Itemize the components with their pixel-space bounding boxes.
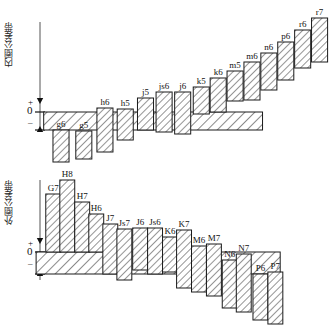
- tolerance-zone-label: P7: [271, 261, 281, 271]
- inner-chart-canvas: g6g5h6h5j5js6j6k5k6m5m6n6p6r6r7: [0, 0, 329, 170]
- tolerance-zone-label: K7: [179, 219, 190, 229]
- tolerance-zone-bar: [53, 130, 69, 162]
- inner-chart-title: 内圈公差带: [3, 22, 13, 67]
- tolerance-zone-label: m6: [246, 51, 258, 61]
- tolerance-zone-bar: [192, 246, 207, 292]
- tolerance-zone-bar: [236, 254, 251, 312]
- tolerance-zone-bar: [103, 224, 118, 274]
- tolerance-zone-bar: [46, 194, 61, 252]
- tolerance-zone-bar: [156, 92, 172, 132]
- tolerance-zone-bar: [206, 244, 221, 296]
- tolerance-zone-label: P6: [256, 263, 266, 273]
- tolerance-zone-label: H6: [91, 203, 102, 213]
- outer-ring-tolerance-chart: 外圈公差带 + 0 – G7H8H7H6J7Js7J6Js6K6K7M6M7N6…: [0, 170, 329, 333]
- tolerance-zone-bar: [75, 202, 90, 252]
- tolerance-zone-bar: [89, 214, 104, 252]
- tolerance-zone-bar: [163, 237, 178, 272]
- tolerance-zone-label: n6: [264, 42, 274, 52]
- tolerance-zone-bar: [268, 272, 283, 324]
- tolerance-zone-label: N7: [238, 243, 249, 253]
- tolerance-zone-bar: [148, 228, 163, 274]
- tolerance-zone-label: h5: [121, 98, 131, 108]
- tolerance-zone-label: j5: [141, 87, 150, 97]
- tolerance-zone-bar: [117, 229, 132, 280]
- tolerance-zone-label: H7: [77, 191, 88, 201]
- tolerance-zone-label: N6: [224, 249, 235, 259]
- tolerance-zone-bar: [193, 87, 209, 114]
- tolerance-zone-bar: [227, 71, 243, 101]
- tolerance-zone-label: g6: [57, 119, 67, 129]
- tolerance-zone-label: G7: [48, 183, 59, 193]
- tolerance-zone-bar: [137, 98, 153, 130]
- tolerance-zone-bar: [210, 78, 226, 112]
- tolerance-zone-label: H8: [62, 170, 73, 179]
- tolerance-zone-label: g5: [79, 120, 89, 130]
- tolerance-zone-label: Js7: [119, 218, 131, 228]
- outer-axis-zero: 0: [27, 247, 33, 255]
- tolerance-zone-label: Js6: [149, 217, 161, 227]
- tolerance-zone-label: k6: [214, 67, 224, 77]
- tolerance-zone-bar: [278, 42, 294, 80]
- tolerance-zone-bar: [133, 228, 148, 270]
- tolerance-zone-label: J7: [106, 213, 115, 223]
- outer-chart-title: 外圈公差带: [3, 180, 13, 225]
- tolerance-zone-bar: [295, 30, 311, 68]
- tolerance-zone-bar: [261, 53, 277, 90]
- tolerance-zone-label: M6: [193, 235, 206, 245]
- tolerance-zone-bar: [60, 180, 75, 252]
- tolerance-zone-label: r6: [299, 19, 307, 29]
- tolerance-zone-label: h6: [100, 97, 110, 107]
- tolerance-zone-label: J6: [136, 217, 145, 227]
- tolerance-zone-bar: [76, 131, 92, 159]
- tolerance-zone-label: r7: [316, 7, 324, 17]
- tolerance-zone-label: K6: [165, 226, 176, 236]
- tolerance-zone-label: p6: [281, 31, 291, 41]
- tolerance-zone-label: M7: [208, 233, 221, 243]
- tolerance-zone-bar: [244, 62, 260, 100]
- tolerance-zone-label: j6: [178, 81, 187, 91]
- tolerance-zone-bar: [97, 108, 113, 152]
- outer-axis-minus: –: [28, 259, 33, 267]
- tolerance-zone-label: js6: [158, 81, 170, 91]
- outer-chart-canvas: G7H8H7H6J7Js7J6Js6K6K7M6M7N6N7P6P7: [0, 170, 329, 333]
- inner-axis-zero: 0: [27, 106, 33, 114]
- tolerance-zone-bar: [177, 230, 192, 288]
- tolerance-zone-label: k5: [197, 76, 207, 86]
- inner-ring-tolerance-chart: 内圈公差带 + 0 – g6g5h6h5j5js6j6k5k6m5m6n6p6r…: [0, 0, 329, 170]
- tolerance-zone-bar: [117, 109, 133, 140]
- tolerance-zone-label: m5: [229, 60, 241, 70]
- tolerance-zone-bar: [175, 92, 191, 134]
- tolerance-zone-bar: [222, 260, 237, 308]
- tolerance-zone-bar: [312, 18, 328, 62]
- tolerance-zone-bar: [253, 274, 268, 320]
- inner-axis-minus: –: [28, 118, 33, 126]
